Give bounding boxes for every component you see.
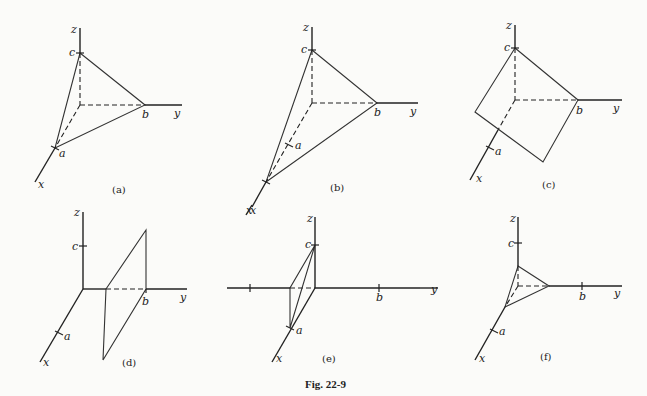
a-label: a [296,324,303,337]
plane-e [290,245,315,328]
caption-d: (d) [122,357,136,368]
caption-e: (e) [322,353,336,364]
x-axis [272,288,315,362]
a-label: a [59,147,66,160]
plane-b [266,50,377,182]
z-label: z [70,23,77,36]
c-label: c [72,240,78,253]
y-label: y [173,107,181,120]
z-label: z [306,212,313,225]
x-label: x [276,352,283,365]
plane-a [55,53,145,148]
a-label: a [499,325,506,338]
panel-c: z c b y a x (c) [470,19,622,190]
y-label: y [613,287,621,300]
x-label: x [38,178,45,191]
panel-b: z c b y a x (b) [246,21,418,217]
y-label: y [612,102,620,115]
b-label: b [142,295,149,308]
b-label: b [579,290,586,303]
x-label: x [479,352,486,365]
panel-e: z c b a x x (e) Fig. 22-9 [227,204,420,390]
z-label: z [302,21,309,34]
b-label: b [376,291,383,304]
b-label: b [576,104,583,117]
a-label: a [495,145,502,158]
b-label: b [142,108,149,121]
caption-b: (b) [330,182,344,193]
c-label: c [508,237,514,250]
plane-d [103,230,146,360]
y-label-e: y [430,283,438,296]
figure-22-9: z c b y a x (a) z c b y a x (b) [0,0,647,396]
b-label: b [374,106,381,119]
x-axis [40,289,83,362]
caption-f: (f) [540,351,552,362]
c-label: c [305,238,311,251]
x-label: x [476,172,483,185]
panel-f: z c b y a x (f) [475,212,622,365]
caption-a: (a) [112,184,126,195]
x-label: x [43,356,50,369]
panel-d: z c b y a x (d) [40,206,187,369]
a-label: a [64,330,71,343]
a-label: a [295,139,302,152]
c-label: c [301,43,307,56]
z-label: z [505,19,512,32]
figure-caption: Fig. 22-9 [305,378,346,390]
panel-a: z c b y a x (a) [35,23,182,195]
y-label: y [179,291,187,304]
x-axis [35,148,55,182]
c-label: c [69,46,75,59]
z-label: z [73,206,80,219]
z-label: z [509,212,516,225]
x-axis [470,130,498,180]
caption-c: (c) [542,179,556,190]
c-label: c [504,41,510,54]
y-label: y [409,105,417,118]
